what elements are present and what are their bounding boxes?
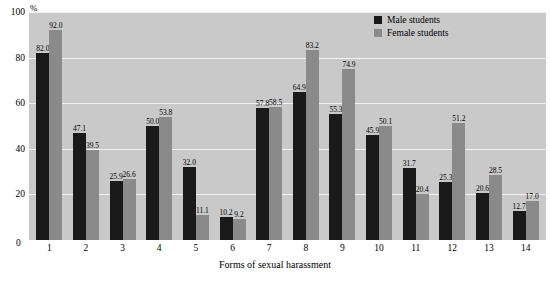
bar-group-13: 20.628.5: [471, 12, 508, 240]
bar-value-label: 28.5: [489, 166, 502, 175]
bar-female-13: 28.5: [489, 175, 502, 240]
bar-value-label: 57.8: [256, 99, 269, 108]
legend-swatch-male-icon: [374, 16, 382, 24]
bar-female-10: 50.1: [379, 126, 392, 240]
x-axis-tick-12: 12: [434, 243, 471, 253]
bar-female-3: 26.6: [123, 179, 136, 240]
bar-male-12: 25.3: [439, 182, 452, 240]
y-axis-tick-40: 40: [16, 144, 26, 154]
bar-female-7: 58.5: [269, 107, 282, 240]
bar-male-6: 10.2: [220, 217, 233, 240]
bar-group-6: 10.29.2: [214, 12, 251, 240]
bar-group-3: 25.926.6: [104, 12, 141, 240]
x-axis-tick-4: 4: [141, 243, 178, 253]
bar-male-5: 32.0: [183, 167, 196, 240]
bar-value-label: 47.1: [73, 124, 86, 133]
bar-group-12: 25.351.2: [434, 12, 471, 240]
bar-value-label: 92.0: [49, 21, 62, 30]
bar-value-label: 17.0: [526, 192, 539, 201]
bar-value-label: 55.3: [329, 105, 342, 114]
bar-value-label: 74.9: [342, 60, 355, 69]
bar-female-8: 83.2: [306, 50, 319, 240]
x-axis-tick-5: 5: [178, 243, 215, 253]
bar-value-label: 12.7: [513, 202, 526, 211]
x-axis-tick-6: 6: [214, 243, 251, 253]
x-axis-tick-7: 7: [251, 243, 288, 253]
bar-value-label: 25.9: [110, 172, 123, 181]
legend-item-female: Female students: [374, 28, 448, 38]
x-axis-tick-11: 11: [397, 243, 434, 253]
bar-male-10: 45.9: [366, 135, 379, 240]
bar-value-label: 31.7: [403, 159, 416, 168]
bar-value-label: 20.6: [476, 184, 489, 193]
bar-male-4: 50.0: [146, 126, 159, 240]
bar-group-5: 32.011.1: [178, 12, 215, 240]
bar-value-label: 83.2: [306, 41, 319, 50]
x-axis-ticks: 1234567891011121314: [29, 243, 546, 253]
bar-value-label: 20.4: [416, 185, 429, 194]
bar-value-label: 58.5: [269, 98, 282, 107]
bar-value-label: 39.5: [86, 141, 99, 150]
bar-value-label: 32.0: [183, 158, 196, 167]
bar-value-label: 10.2: [219, 208, 232, 217]
x-axis-title: Forms of sexual harassment: [0, 259, 550, 270]
x-axis-tick-9: 9: [324, 243, 361, 253]
y-axis-tick-100: 100: [11, 7, 25, 17]
x-axis-tick-8: 8: [287, 243, 324, 253]
bar-female-9: 74.9: [342, 69, 355, 240]
bar-male-2: 47.1: [73, 133, 86, 240]
bar-female-12: 51.2: [452, 123, 465, 240]
y-axis-tick-60: 60: [16, 98, 26, 108]
bar-female-6: 9.2: [233, 219, 246, 240]
bar-male-3: 25.9: [110, 181, 123, 240]
bar-group-11: 31.720.4: [397, 12, 434, 240]
legend-item-male: Male students: [374, 15, 448, 25]
bar-group-7: 57.858.5: [251, 12, 288, 240]
bar-value-label: 9.2: [234, 210, 243, 219]
bar-group-1: 82.092.0: [31, 12, 68, 240]
bar-male-11: 31.7: [403, 168, 416, 240]
bar-chart: % 10080604020 82.092.047.139.525.926.650…: [0, 0, 550, 285]
legend-swatch-female-icon: [374, 29, 382, 37]
bar-value-label: 53.8: [159, 108, 172, 117]
bar-male-1: 82.0: [36, 53, 49, 240]
bar-group-2: 47.139.5: [68, 12, 105, 240]
bar-value-label: 11.1: [196, 206, 209, 215]
x-axis-tick-2: 2: [68, 243, 105, 253]
bar-female-5: 11.1: [196, 215, 209, 240]
x-axis-tick-3: 3: [104, 243, 141, 253]
bar-group-8: 64.983.2: [287, 12, 324, 240]
bar-female-2: 39.5: [86, 150, 99, 240]
legend-label-female: Female students: [387, 28, 448, 38]
y-axis: 10080604020: [0, 12, 28, 240]
bar-value-label: 45.9: [366, 126, 379, 135]
bar-male-7: 57.8: [256, 108, 269, 240]
x-axis-tick-10: 10: [361, 243, 398, 253]
bar-value-label: 50.1: [379, 117, 392, 126]
x-axis-tick-1: 1: [31, 243, 68, 253]
bar-female-14: 17.0: [526, 201, 539, 240]
bar-male-9: 55.3: [329, 114, 342, 240]
bar-value-label: 50.0: [146, 117, 159, 126]
bar-group-9: 55.374.9: [324, 12, 361, 240]
x-axis-tick-14: 14: [507, 243, 544, 253]
bar-group-10: 45.950.1: [361, 12, 398, 240]
plot-area: 82.092.047.139.525.926.650.053.832.011.1…: [29, 12, 546, 240]
x-axis-tick-13: 13: [471, 243, 508, 253]
bar-groups: 82.092.047.139.525.926.650.053.832.011.1…: [29, 12, 546, 240]
bar-value-label: 51.2: [452, 114, 465, 123]
bar-female-4: 53.8: [159, 117, 172, 240]
bar-male-14: 12.7: [513, 211, 526, 240]
bar-female-1: 92.0: [49, 30, 62, 240]
bar-value-label: 64.9: [293, 83, 306, 92]
bar-group-14: 12.717.0: [507, 12, 544, 240]
chart-legend: Male students Female students: [374, 15, 448, 41]
bar-value-label: 82.0: [36, 44, 49, 53]
bar-male-8: 64.9: [293, 92, 306, 240]
legend-label-male: Male students: [387, 15, 440, 25]
bar-value-label: 26.6: [123, 170, 136, 179]
bar-male-13: 20.6: [476, 193, 489, 240]
y-axis-tick-20: 20: [16, 189, 26, 199]
y-axis-tick-80: 80: [16, 53, 26, 63]
bar-group-4: 50.053.8: [141, 12, 178, 240]
